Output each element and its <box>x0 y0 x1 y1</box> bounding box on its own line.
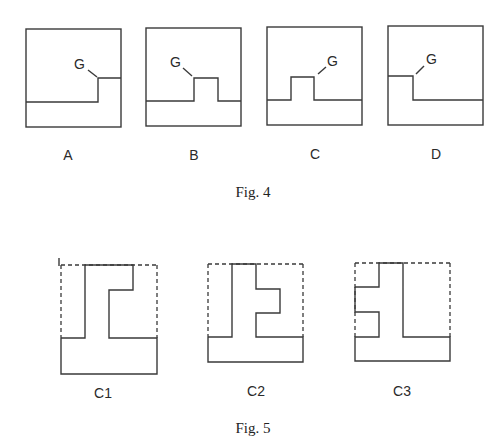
fig4-panel-d: G D <box>388 26 483 162</box>
panel-b-frame <box>146 28 241 126</box>
fig5-panel-c3: C3 <box>355 263 450 399</box>
panel-a-step <box>26 78 121 102</box>
panel-a-label: A <box>63 147 73 163</box>
panel-a-leader <box>88 70 97 77</box>
panel-c-leader <box>318 67 326 74</box>
panel-d-marker: G <box>426 51 437 67</box>
panel-d-leader <box>416 66 424 74</box>
fig4-panel-c: G C <box>267 27 362 162</box>
fig4-caption: Fig. 4 <box>235 184 271 200</box>
c3-solid-shape <box>355 263 450 361</box>
panel-d-label: D <box>431 146 441 162</box>
panel-c-bump <box>267 77 362 100</box>
fig4-panel-a: G A <box>26 29 121 163</box>
panel-b-label: B <box>189 147 198 163</box>
c1-solid-shape <box>61 265 157 374</box>
c3-label: C3 <box>393 383 411 399</box>
c1-label: C1 <box>94 385 112 401</box>
panel-a-marker: G <box>74 56 85 72</box>
panel-c-frame <box>267 27 362 125</box>
fig5-panel-c1: C1 <box>59 258 157 401</box>
panel-d-step <box>388 76 483 100</box>
panel-b-leader <box>183 68 192 76</box>
c2-label: C2 <box>247 383 265 399</box>
panel-b-bump <box>146 78 241 101</box>
fig5-caption: Fig. 5 <box>235 420 270 436</box>
panel-b-marker: G <box>170 54 181 70</box>
fig5: C1 C2 C3 Fig. 5 <box>59 258 450 436</box>
fig5-panel-c2: C2 <box>208 264 303 399</box>
panel-c-label: C <box>310 146 320 162</box>
fig4: G A G B G C G D Fig. 4 <box>26 26 483 200</box>
c2-solid-shape <box>208 264 303 362</box>
figure-canvas: G A G B G C G D Fig. 4 <box>0 0 502 446</box>
fig4-panel-b: G B <box>146 28 241 163</box>
panel-c-marker: G <box>327 53 338 69</box>
